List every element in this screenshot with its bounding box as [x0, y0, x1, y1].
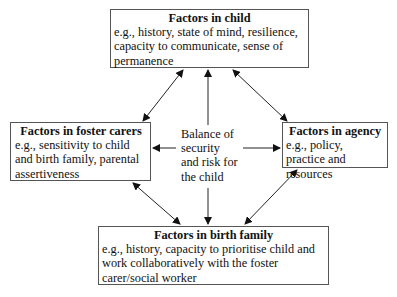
node-body: e.g., policy, practice and resources	[286, 138, 384, 181]
arrow-foster-birth	[133, 183, 180, 224]
node-factors-in-child: Factors in child e.g., history, state of…	[110, 9, 309, 68]
center-line: security	[181, 141, 261, 155]
node-title: Factors in child	[114, 11, 305, 25]
center-line: and risk for	[181, 155, 261, 169]
node-factors-in-birth-family: Factors in birth family e.g., history, c…	[98, 226, 329, 285]
arrow-agency-child	[233, 70, 287, 121]
center-balance-label: Balance of security and risk for the chi…	[181, 127, 261, 184]
node-body: e.g., history, state of mind, resilience…	[114, 25, 305, 68]
node-title: Factors in foster carers	[15, 124, 147, 138]
center-line: the child	[181, 170, 261, 184]
node-body: e.g., history, capacity to prioritise ch…	[102, 242, 325, 285]
node-factors-in-foster-carers: Factors in foster carers e.g., sensitivi…	[10, 122, 151, 181]
node-title: Factors in agency	[286, 124, 384, 138]
node-factors-in-agency: Factors in agency e.g., policy, practice…	[282, 122, 388, 168]
center-line: Balance of	[181, 127, 261, 141]
node-title: Factors in birth family	[102, 228, 325, 242]
arrow-foster-child	[143, 70, 183, 121]
node-body: e.g., sensitivity to child and birth fam…	[15, 138, 147, 181]
